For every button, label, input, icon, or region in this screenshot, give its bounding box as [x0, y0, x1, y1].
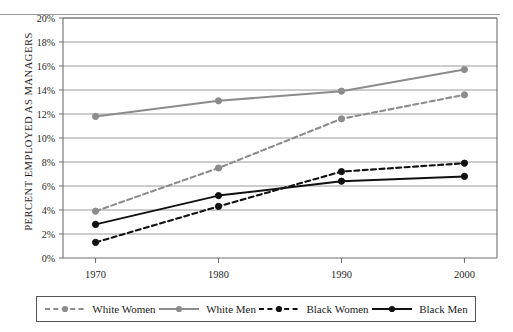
y-axis-tick-label: 10% [37, 133, 55, 144]
data-point-marker [215, 98, 221, 104]
x-axis-tick-group: 1970198019902000 [85, 258, 475, 280]
series-line [96, 70, 465, 117]
legend-swatch-icon [371, 303, 413, 315]
data-point-marker [338, 169, 344, 175]
y-axis-tick-label: 4% [42, 205, 55, 216]
y-axis-tick-label: 2% [42, 229, 55, 240]
data-point-marker [215, 165, 221, 171]
y-axis-tick-label: 6% [42, 181, 55, 192]
data-point-marker [461, 173, 467, 179]
legend-item-label: Black Women [306, 303, 368, 315]
data-point-marker [215, 193, 221, 199]
y-axis-tick-label: 8% [42, 157, 55, 168]
data-point-marker [338, 88, 344, 94]
y-axis-tick-label: 0% [42, 253, 55, 264]
data-point-marker [338, 178, 344, 184]
data-point-marker [461, 67, 467, 73]
legend-swatch-icon [158, 303, 200, 315]
y-axis-tick-group: 0%2%4%6%8%10%12%14%16%18%20% [37, 13, 63, 264]
y-axis-tick-label: 16% [37, 61, 55, 72]
legend-swatch-icon [44, 303, 86, 315]
series-line [96, 163, 465, 242]
x-axis-tick-label: 2000 [454, 269, 475, 280]
data-point-marker [92, 113, 98, 119]
legend-item[interactable]: Black Women [258, 303, 368, 315]
data-point-marker [461, 160, 467, 166]
y-axis-tick-label: 18% [37, 37, 55, 48]
data-point-marker [215, 203, 221, 209]
y-axis-tick-label: 14% [37, 85, 55, 96]
data-point-marker [92, 208, 98, 214]
x-axis-tick-label: 1980 [208, 269, 229, 280]
legend-item[interactable]: White Women [44, 303, 155, 315]
legend-item[interactable]: White Men [158, 303, 256, 315]
data-point-marker [338, 116, 344, 122]
legend: White WomenWhite MenBlack WomenBlack Men [36, 296, 476, 322]
legend-item-label: White Women [92, 303, 155, 315]
legend-swatch-icon [258, 303, 300, 315]
chart-container: PERCENT EMPLOYED AS MANAGERS 0%2%4%6%8%1… [0, 0, 513, 332]
legend-item-label: Black Men [419, 303, 468, 315]
data-point-marker [92, 221, 98, 227]
series-line [96, 95, 465, 211]
gridline-group [63, 18, 497, 234]
legend-item[interactable]: Black Men [371, 303, 468, 315]
data-point-marker [461, 92, 467, 98]
data-series-group [92, 67, 467, 246]
y-axis-tick-label: 12% [37, 109, 55, 120]
legend-item-label: White Men [206, 303, 256, 315]
x-axis-tick-label: 1990 [331, 269, 352, 280]
y-axis-tick-label: 20% [37, 13, 55, 24]
plot-area: 0%2%4%6%8%10%12%14%16%18%20% 19701980199… [0, 0, 513, 296]
x-axis-tick-label: 1970 [85, 269, 106, 280]
data-point-marker [92, 239, 98, 245]
series-line [96, 176, 465, 224]
